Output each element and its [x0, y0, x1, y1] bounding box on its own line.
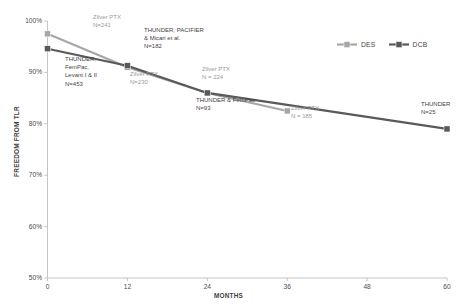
y-axis-title: FREEDOM FROM TLR	[13, 102, 20, 182]
legend-label-dcb: DCB	[413, 41, 428, 48]
x-tick-24: 24	[192, 283, 222, 290]
x-tick-0: 0	[33, 283, 63, 290]
marker-des-0	[45, 31, 51, 37]
y-tick-60: 60%	[8, 223, 42, 230]
marker-dcb-24	[204, 90, 210, 96]
x-tick-48: 48	[352, 283, 382, 290]
legend-label-des: DES	[361, 41, 376, 48]
series-line-dcb	[48, 49, 448, 129]
x-tick-12: 12	[112, 283, 142, 290]
legend-item-des[interactable]: DES	[336, 40, 376, 49]
chart-legend: DESDCB	[336, 40, 428, 49]
marker-des-36	[284, 108, 290, 114]
chart-container: 50%60%70%80%90%100% 01224364860 Zilver P…	[0, 0, 457, 307]
x-tick-36: 36	[272, 283, 302, 290]
y-tick-50: 50%	[8, 274, 42, 281]
legend-swatch-des	[336, 40, 358, 49]
x-axis-title: MONTHS	[0, 292, 457, 299]
legend-swatch-dcb	[388, 40, 410, 49]
legend-item-dcb[interactable]: DCB	[388, 40, 428, 49]
marker-dcb-60	[444, 126, 450, 132]
marker-dcb-0	[45, 46, 51, 52]
x-tick-60: 60	[432, 283, 457, 290]
y-tick-100: 100%	[8, 17, 42, 24]
y-tick-90: 90%	[8, 68, 42, 75]
marker-dcb-12	[124, 63, 130, 69]
annotation-thunder-pacifier-micari-182: THUNDER, PACIFIER & Micari et al. N=182	[144, 26, 204, 51]
